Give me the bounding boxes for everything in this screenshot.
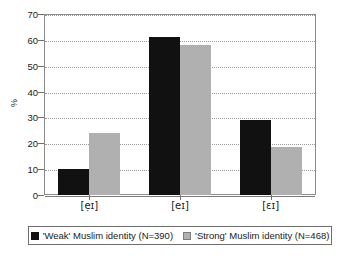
y-axis-tick-label: 70 <box>12 9 38 20</box>
legend-item[interactable]: 'Strong' Muslim identity (N=468) <box>183 230 329 241</box>
chart-legend: 'Weak' Muslim identity (N=390)'Strong' M… <box>28 226 332 245</box>
bar-group-container <box>44 14 316 195</box>
bar <box>180 45 211 195</box>
x-axis-label-group: [ẹɪ][eɪ][ɛɪ] <box>44 200 316 211</box>
bar-chart-figure: % 010203040506070 [ẹɪ][eɪ][ɛɪ] 'Weak' Mu… <box>0 0 359 256</box>
y-axis-tick-mark <box>38 195 44 196</box>
legend-item[interactable]: 'Weak' Muslim identity (N=390) <box>31 230 173 241</box>
bar <box>271 147 302 195</box>
y-axis-tick-label: 0 <box>12 190 38 201</box>
y-axis-tick-label: 50 <box>12 60 38 71</box>
legend-label: 'Strong' Muslim identity (N=468) <box>195 230 329 241</box>
bar <box>89 133 120 195</box>
legend-swatch-icon <box>183 232 191 240</box>
y-axis-tick-label: 40 <box>12 86 38 97</box>
bar-group <box>44 14 135 195</box>
bar <box>240 120 271 195</box>
bar-group <box>135 14 226 195</box>
bar-group <box>225 14 316 195</box>
legend-label: 'Weak' Muslim identity (N=390) <box>43 230 173 241</box>
bar <box>149 37 180 195</box>
y-axis-tick-label: 30 <box>12 112 38 123</box>
bar <box>58 169 89 195</box>
x-axis-tick-label: [ẹɪ] <box>44 200 135 211</box>
y-axis-tick-label: 10 <box>12 164 38 175</box>
y-axis-tick-label: 20 <box>12 138 38 149</box>
legend-swatch-icon <box>31 232 39 240</box>
y-axis-tick-label: 60 <box>12 34 38 45</box>
x-axis-tick-label: [eɪ] <box>135 200 226 211</box>
x-axis-tick-label: [ɛɪ] <box>225 200 316 211</box>
